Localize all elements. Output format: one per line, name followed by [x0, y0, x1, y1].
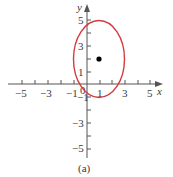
- y-axis-label: y: [76, 1, 82, 13]
- x-axis-label: x: [156, 85, 162, 97]
- center-point: [96, 56, 101, 61]
- x-tick-label: −1: [66, 87, 78, 99]
- y-tick-label: 5: [78, 14, 84, 26]
- x-tick-label: 3: [122, 87, 128, 99]
- figure-caption: (a): [78, 162, 91, 175]
- y-tick-label: −3: [72, 117, 84, 129]
- x-tick-label: −5: [15, 87, 27, 99]
- y-tick-label: 1: [78, 66, 84, 78]
- x-tick-label: −3: [40, 87, 52, 99]
- x-ticks: [22, 80, 150, 84]
- y-axis-arrow-icon: [84, 4, 90, 12]
- ellipse-diagram: −5 −3 −1 1 3 5 5 3 1 −1 −3 −5 x y 0 (a): [0, 0, 173, 177]
- y-tick-label: 3: [78, 40, 84, 52]
- y-tick-label: −5: [72, 142, 84, 154]
- x-tick-label: 5: [147, 87, 153, 99]
